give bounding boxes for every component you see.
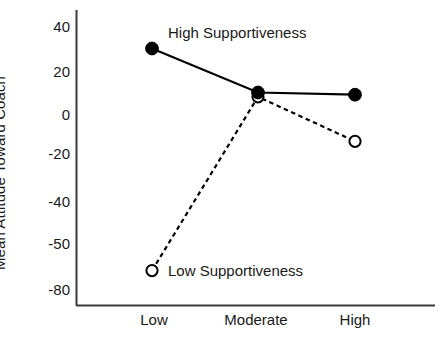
data-point-open-circle <box>146 265 157 276</box>
series-markers-low-supportiveness <box>146 91 360 276</box>
chart-figure: Mean Attitude Toward Coach 40 20 0 -20 -… <box>0 0 443 346</box>
series-line-low-supportiveness <box>152 97 355 271</box>
data-point-open-circle <box>349 136 360 147</box>
data-point-filled-circle <box>252 86 265 99</box>
data-point-filled-circle <box>349 88 362 101</box>
data-point-filled-circle <box>146 42 159 55</box>
plot-area <box>0 0 443 346</box>
series-markers-high-supportiveness <box>146 42 362 101</box>
